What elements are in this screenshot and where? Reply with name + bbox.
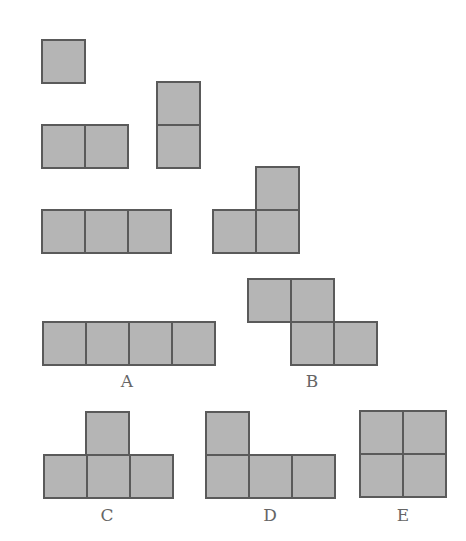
- square-cell: [84, 209, 129, 254]
- square-cell: [333, 321, 378, 366]
- square-cell: [156, 81, 201, 126]
- square-cell: [205, 411, 250, 456]
- square-cell: [255, 166, 300, 211]
- piece-label-a: A: [121, 373, 133, 390]
- square-cell: [290, 278, 335, 323]
- square-cell: [248, 454, 293, 499]
- square-cell: [205, 454, 250, 499]
- square-cell: [255, 209, 300, 254]
- square-cell: [247, 278, 292, 323]
- square-cell: [127, 209, 172, 254]
- square-cell: [359, 410, 404, 455]
- square-cell: [212, 209, 257, 254]
- square-cell: [402, 453, 447, 498]
- square-cell: [43, 454, 88, 499]
- square-cell: [41, 39, 86, 84]
- square-cell: [171, 321, 216, 366]
- square-cell: [41, 209, 86, 254]
- square-cell: [85, 411, 130, 456]
- square-cell: [156, 124, 201, 169]
- square-cell: [128, 321, 173, 366]
- piece-label-b: B: [306, 373, 319, 390]
- piece-label-c: C: [100, 507, 113, 524]
- square-cell: [85, 321, 130, 366]
- square-cell: [84, 124, 129, 169]
- square-cell: [129, 454, 174, 499]
- square-cell: [42, 321, 87, 366]
- square-cell: [359, 453, 404, 498]
- square-cell: [402, 410, 447, 455]
- piece-label-e: E: [397, 507, 409, 524]
- square-cell: [86, 454, 131, 499]
- square-cell: [290, 321, 335, 366]
- square-cell: [41, 124, 86, 169]
- square-cell: [291, 454, 336, 499]
- piece-label-d: D: [263, 507, 277, 524]
